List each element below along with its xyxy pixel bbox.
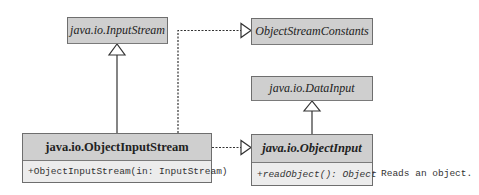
class-datainput-name: java.io.DataInput bbox=[269, 81, 354, 96]
method-objectinputstream-constructor: +ObjectInputStream(in: InputStream) bbox=[28, 166, 228, 177]
readobject-note: Reads an object. bbox=[381, 168, 472, 179]
class-objectinputstream-header: java.io.ObjectInputStream bbox=[23, 134, 211, 161]
class-objectinputstream-methods: +ObjectInputStream(in: InputStream) bbox=[23, 161, 211, 182]
class-objectinput: java.io.ObjectInput +readObject(): Objec… bbox=[251, 134, 373, 186]
class-inputstream-name: java.io.InputStream bbox=[70, 23, 165, 38]
implements-objectinput-arrow bbox=[212, 141, 251, 155]
extends-datainput-arrow bbox=[304, 101, 320, 134]
class-objectstreamconstants: ObjectStreamConstants bbox=[251, 18, 373, 45]
class-objectinput-header: java.io.ObjectInput bbox=[252, 135, 372, 163]
class-objectinputstream: java.io.ObjectInputStream +ObjectInputSt… bbox=[22, 133, 212, 183]
class-inputstream: java.io.InputStream bbox=[67, 17, 168, 44]
class-objectinput-methods: +readObject(): Object bbox=[252, 163, 372, 185]
class-objectstreamconstants-name: ObjectStreamConstants bbox=[255, 24, 369, 39]
extends-inputstream-arrow bbox=[109, 44, 125, 133]
implements-objectstreamconstants-arrow bbox=[178, 24, 251, 134]
class-objectinputstream-name: java.io.ObjectInputStream bbox=[45, 140, 189, 155]
class-objectinput-name: java.io.ObjectInput bbox=[262, 141, 361, 156]
class-datainput: java.io.DataInput bbox=[251, 76, 373, 101]
method-readobject: +readObject(): Object bbox=[257, 169, 377, 180]
